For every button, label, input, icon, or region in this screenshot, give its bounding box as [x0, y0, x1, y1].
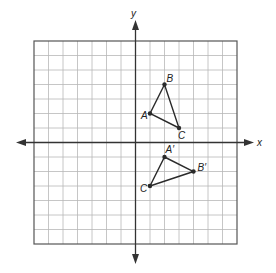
- x-axis-left-arrow-icon: [16, 139, 26, 146]
- vertex-label: B′: [198, 162, 208, 173]
- y-axis-up-arrow-icon: [132, 20, 139, 30]
- vertex-label: C′: [140, 183, 150, 194]
- vertex-point: [162, 155, 166, 159]
- vertex-label: A: [140, 110, 148, 121]
- vertex-point: [148, 111, 152, 115]
- y-axis-label: y: [130, 8, 137, 19]
- vertex-point: [191, 169, 195, 173]
- axes: y x: [16, 8, 263, 264]
- vertex-label: B: [167, 73, 174, 84]
- y-axis-down-arrow-icon: [132, 254, 139, 264]
- x-axis-right-arrow-icon: [244, 139, 254, 146]
- vertex-label: C: [178, 130, 186, 141]
- coordinate-plane: y x ABCA′B′C′: [0, 0, 276, 273]
- vertex-label: A′: [165, 144, 176, 155]
- x-axis-label: x: [256, 137, 263, 148]
